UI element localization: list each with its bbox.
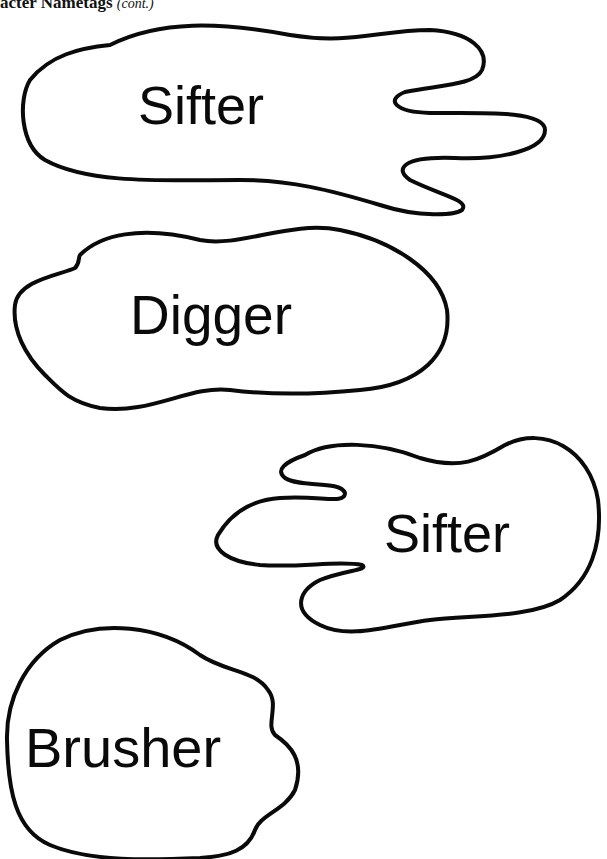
nametag-label-digger: Digger	[130, 288, 292, 343]
nametag-outline-sifter-1	[23, 26, 545, 215]
nametag-label-sifter-1: Sifter	[138, 78, 264, 132]
nametag-label-sifter-2: Sifter	[384, 506, 510, 560]
nametag-label-brusher: Brusher	[25, 720, 221, 776]
